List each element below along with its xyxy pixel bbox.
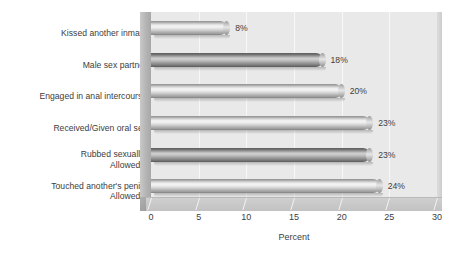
floor-tick-mark <box>433 198 438 210</box>
bar-end-cap <box>338 84 345 98</box>
plot-area: 8%18%20%23%23%24% <box>151 12 437 202</box>
bar-body <box>151 179 380 193</box>
bar[interactable] <box>151 179 380 193</box>
x-tick-label: 20 <box>337 212 347 222</box>
bar-end-cap <box>376 179 383 193</box>
bar-shadow <box>154 98 345 102</box>
category-label: Touched another's penis/ Allowed it <box>0 181 147 202</box>
x-tick-label: 10 <box>241 212 251 222</box>
bar[interactable] <box>151 84 342 98</box>
bar-end-cap <box>223 21 230 35</box>
bar-end-cap <box>366 148 373 162</box>
bar-body <box>151 148 370 162</box>
bar-value-label: 8% <box>235 23 247 33</box>
category-axis-labels: Kissed another inmate Male sex partner E… <box>0 16 147 196</box>
floor-tick-mark <box>386 198 391 210</box>
gridline-vertical <box>199 12 200 202</box>
category-label: Kissed another inmate <box>0 28 147 38</box>
bar-shadow <box>154 35 230 39</box>
x-tick-label: 15 <box>289 212 299 222</box>
floor-tick-mark <box>243 198 248 210</box>
bar-value-label: 23% <box>378 150 395 160</box>
x-axis-title: Percent <box>151 232 437 242</box>
floor-tick-mark <box>290 198 295 210</box>
bar-shadow <box>154 162 373 166</box>
plot-left-wall <box>140 12 151 202</box>
x-tick-label: 30 <box>432 212 442 222</box>
x-tick-label: 5 <box>196 212 201 222</box>
category-label: Rubbed sexually/ Allowed it <box>0 149 147 170</box>
bar[interactable] <box>151 53 323 67</box>
bar-value-label: 24% <box>388 181 405 191</box>
bar-end-cap <box>319 53 326 67</box>
category-label: Engaged in anal intercourse <box>0 91 147 101</box>
bar[interactable] <box>151 148 370 162</box>
bar-value-label: 23% <box>378 118 395 128</box>
bar-body <box>151 116 370 130</box>
x-axis-tick-labels: 051015202530 <box>0 212 462 226</box>
floor-tick-mark <box>338 198 343 210</box>
bar-value-label: 18% <box>331 55 348 65</box>
plot-right-edge <box>437 12 442 202</box>
x-tick-label: 25 <box>384 212 394 222</box>
category-label: Received/Given oral sex <box>0 123 147 133</box>
category-label: Male sex partner <box>0 60 147 70</box>
bar-body <box>151 53 323 67</box>
bar-body <box>151 84 342 98</box>
bar-body <box>151 21 227 35</box>
bar[interactable] <box>151 116 370 130</box>
gridline-vertical <box>389 12 390 202</box>
floor-tick-mark <box>147 198 152 210</box>
gridline-vertical <box>342 12 343 202</box>
gridline-vertical <box>294 12 295 202</box>
plot-floor <box>146 197 442 211</box>
x-tick-label: 0 <box>148 212 153 222</box>
bar-shadow <box>154 67 326 71</box>
bar-shadow <box>154 130 373 134</box>
bar-chart: Kissed another inmate Male sex partner E… <box>0 0 462 262</box>
bar-value-label: 20% <box>350 86 367 96</box>
bar[interactable] <box>151 21 227 35</box>
bar-end-cap <box>366 116 373 130</box>
floor-tick-mark <box>195 198 200 210</box>
gridline-vertical <box>246 12 247 202</box>
